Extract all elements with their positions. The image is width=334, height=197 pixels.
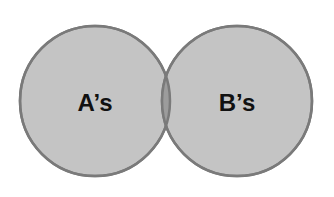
set-a-label: A’s	[77, 89, 112, 116]
set-b-label: B’s	[219, 89, 255, 116]
venn-diagram: A’s B’s	[0, 0, 334, 197]
